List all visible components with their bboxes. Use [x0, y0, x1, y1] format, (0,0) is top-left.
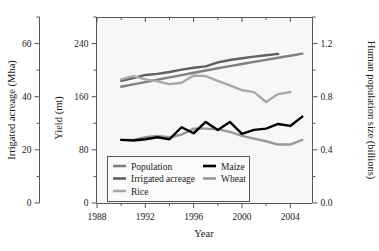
tick-label: 240 [74, 39, 89, 49]
legend-label-wheat: Wheat [221, 174, 246, 184]
tick-label: 0 [84, 198, 89, 208]
tick-label: 80 [79, 145, 89, 155]
tick-label: 2004 [281, 212, 300, 222]
tick-label: 20 [22, 145, 32, 155]
tick-label: 1996 [184, 212, 203, 222]
tick-label: 0 [27, 198, 32, 208]
chart-legend: PopulationIrrigated acreageRiceMaizeWhea… [108, 157, 250, 202]
tick-label: 40 [22, 92, 32, 102]
tick-label: 1988 [88, 212, 107, 222]
tick-label: 1.2 [321, 39, 333, 49]
tick-label: 60 [22, 39, 32, 49]
axis-left-inner-title: Yield (mt) [53, 96, 65, 140]
legend-label-irrigated-acreage: Irrigated acreage [131, 174, 195, 184]
legend-label-rice: Rice [131, 187, 148, 197]
tick-label: 0.0 [321, 198, 333, 208]
axis-x-title: Year [194, 228, 214, 239]
tick-label: 1992 [136, 212, 155, 222]
figure-root: 0204060 Irrigated acreage (Mha) 08016024… [0, 0, 379, 251]
tick-label: 160 [74, 92, 89, 102]
tick-label: 0.4 [321, 145, 333, 155]
tick-label: 2000 [232, 212, 251, 222]
axis-left-outer-title: Irrigated acreage (Mha) [6, 60, 18, 160]
legend-label-maize: Maize [221, 162, 245, 172]
tick-label: 0.8 [321, 92, 333, 102]
axis-right-title: Human population size (billions) [365, 41, 377, 180]
legend-label-population: Population [131, 162, 172, 172]
